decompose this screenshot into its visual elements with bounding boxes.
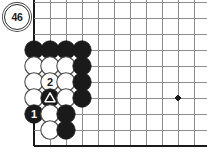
black-stone-disc [57, 121, 75, 139]
stone-move-number: 1 [31, 108, 37, 120]
black-stone [73, 89, 91, 107]
stone-move-number: 2 [47, 76, 53, 88]
star-point [175, 95, 180, 100]
star-points [175, 95, 180, 100]
black-stone [57, 121, 75, 139]
go-diagram: 21 46 [0, 0, 207, 157]
go-board: 21 [0, 0, 207, 157]
black-stone-disc [73, 89, 91, 107]
figure-number-badge: 46 [4, 4, 30, 30]
